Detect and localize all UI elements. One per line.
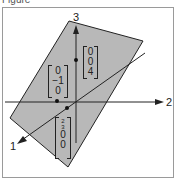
left-bracket [48,65,52,98]
axis-2-label: 2 [166,96,172,108]
left-bracket [55,117,59,159]
axis-1-label: 1 [10,140,16,152]
axis-3-label: 3 [73,11,79,23]
left-bracket [83,46,87,79]
point-y-dot [55,99,59,103]
axis-2-arrowhead-icon [155,99,164,105]
vector-y-matrix: 0 −1 0 [48,65,68,98]
point-x-dot [65,106,69,110]
right-bracket [94,46,98,79]
right-bracket [67,117,71,159]
vector-z-matrix: 0 0 4 [83,46,98,79]
diagram-canvas [0,0,177,181]
vector-x-matrix: 2 3 0 0 [55,117,71,159]
right-bracket [64,65,68,98]
point-z-dot [74,58,78,62]
